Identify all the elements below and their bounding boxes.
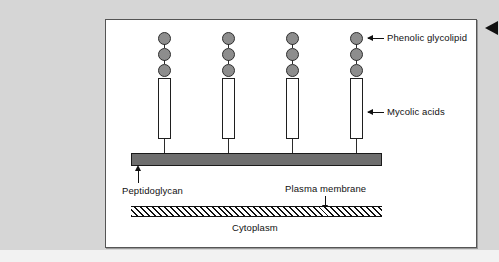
page-background-strip (0, 250, 499, 262)
mycolic-acid-rectangle (222, 78, 235, 139)
plasma-membrane-arrow (325, 196, 326, 206)
mycolic-acid-stem (356, 139, 357, 154)
mycolic-acid-rectangle (286, 78, 299, 139)
cell-wall-diagram-panel: Phenolic glycolipid Mycolic acids Peptid… (105, 19, 477, 248)
phenolic-glycolipid-arrow (368, 38, 384, 39)
phenolic-glycolipid-dot (286, 64, 299, 77)
mycolic-acid-stem (228, 139, 229, 154)
mycolic-acid-stem (292, 139, 293, 154)
mycolic-acids-arrow (368, 112, 384, 113)
phenolic-glycolipid-dot (158, 64, 171, 77)
figure-page: Phenolic glycolipid Mycolic acids Peptid… (0, 0, 499, 262)
phenolic-glycolipid-label: Phenolic glycolipid (387, 32, 467, 43)
mycolic-acid-rectangle (158, 78, 171, 139)
left-pointing-triangle-icon (485, 21, 498, 35)
mycolic-acids-label: Mycolic acids (387, 106, 445, 117)
phenolic-glycolipid-dot (222, 64, 235, 77)
plasma-membrane-label: Plasma membrane (285, 183, 366, 194)
phenolic-glycolipid-dot (350, 64, 363, 77)
cytoplasm-label: Cytoplasm (232, 222, 278, 233)
mycolic-acid-stem (164, 139, 165, 154)
peptidoglycan-layer (131, 153, 382, 166)
plasma-membrane-layer (131, 206, 382, 217)
peptidoglycan-label: Peptidoglycan (122, 185, 183, 196)
peptidoglycan-arrow (138, 170, 139, 183)
mycolic-acid-rectangle (350, 78, 363, 139)
